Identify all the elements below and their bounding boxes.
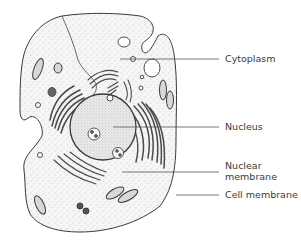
lysosome [48, 88, 56, 97]
label-nuclear-membrane: Nuclear membrane [225, 160, 277, 182]
label-nucleus: Nucleus [225, 121, 263, 132]
label-nuclear-membrane-line1: Nuclear [225, 160, 277, 171]
label-nuclear-membrane-line2: membrane [225, 171, 277, 182]
label-cell-membrane: Cell membrane [225, 189, 298, 200]
label-cytoplasm: Cytoplasm [225, 53, 276, 64]
